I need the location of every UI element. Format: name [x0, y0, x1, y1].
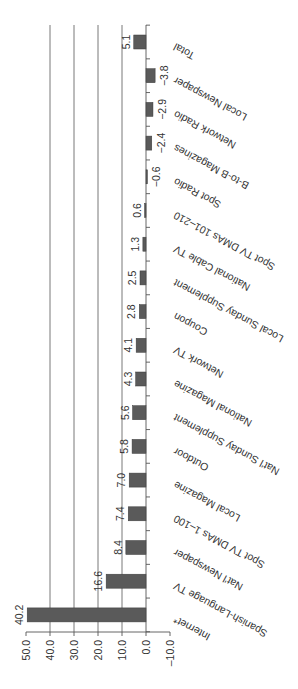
tick-label: 30.0 — [68, 640, 80, 661]
value-label: 40.2 — [13, 605, 25, 626]
value-labels: 5.1−3.8−2.9−2.4−0.60.61.32.52.84.14.35.6… — [13, 35, 170, 626]
value-label: −3.8 — [158, 65, 170, 86]
bar — [146, 69, 155, 83]
value-label: −2.9 — [156, 99, 168, 120]
value-label: 1.3 — [129, 237, 141, 252]
value-label: 7.4 — [114, 506, 126, 521]
value-label: 8.4 — [112, 540, 124, 555]
bar — [132, 439, 146, 453]
bar — [146, 102, 153, 116]
tick-labels: 50.040.030.020.010.00.0–10.0 — [20, 640, 176, 666]
tick-label: 40.0 — [44, 640, 56, 661]
category-labels: TotalLocal NewspaperNetwork RadioB-to-B … — [171, 41, 285, 643]
value-label: 16.6 — [92, 571, 104, 592]
bar — [128, 507, 146, 521]
category-label: Internet* — [171, 614, 212, 643]
category-label: Outdoor — [171, 445, 211, 474]
category-label: Coupon — [171, 311, 209, 339]
bar-chart: 50.040.030.020.010.00.0–10.0 5.1−3.8−2.9… — [0, 0, 298, 689]
category-label: Local Sunday Supplement — [171, 277, 285, 345]
tick-label: 10.0 — [116, 640, 128, 661]
value-label: 5.8 — [118, 439, 130, 454]
bar — [139, 305, 146, 319]
bar — [140, 271, 146, 285]
value-label: 0.6 — [131, 203, 143, 218]
bar — [146, 136, 152, 150]
value-label: 2.5 — [126, 270, 138, 285]
value-label: −2.4 — [155, 133, 167, 154]
category-label: Nat'l Sunday Supplement — [171, 412, 281, 478]
tick-label: –10.0 — [164, 640, 176, 666]
value-label: −0.6 — [150, 166, 162, 187]
category-label: Spot TV DMAs 101–210 — [171, 210, 277, 274]
value-label: 7.0 — [115, 473, 127, 488]
category-label: Spot Radio — [171, 176, 223, 211]
bar — [143, 237, 146, 251]
tick-label: 50.0 — [20, 640, 32, 661]
bar — [126, 541, 146, 555]
bars — [27, 35, 155, 622]
tick-label: 20.0 — [92, 640, 104, 661]
value-label: 5.6 — [119, 405, 131, 420]
value-label: 2.8 — [125, 304, 137, 319]
bar — [106, 574, 146, 588]
bar — [136, 338, 146, 352]
category-label: Network TV — [171, 345, 225, 381]
bar — [27, 608, 146, 622]
bar — [133, 406, 146, 420]
value-label: 4.1 — [122, 338, 134, 353]
bar — [129, 473, 146, 487]
value-label: 4.3 — [122, 372, 134, 387]
category-label: Total — [171, 41, 196, 62]
value-label: 5.1 — [120, 35, 132, 50]
bar — [136, 372, 146, 386]
bar — [134, 35, 146, 49]
tick-label: 0.0 — [140, 640, 152, 655]
